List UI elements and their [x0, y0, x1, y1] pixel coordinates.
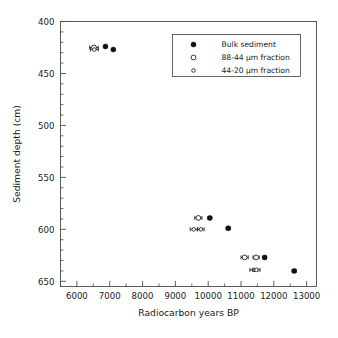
x-tick-label: 6000 [66, 291, 88, 301]
data-point-open-circle-small [93, 48, 97, 52]
legend: Bulk sediment88-44 µm fraction44-20 µm f… [173, 35, 301, 77]
data-point-filled-circle [226, 226, 231, 231]
data-point-filled-circle [103, 44, 108, 49]
y-tick-label: 600 [38, 225, 54, 235]
y-axis-title: Sediment depth (cm) [11, 105, 22, 203]
x-tick-label: 9000 [164, 291, 186, 301]
x-tick-label: 12000 [260, 291, 287, 301]
data-point-open-circle-small [192, 228, 196, 232]
x-tick-label: 8000 [132, 291, 154, 301]
y-tick-label: 650 [38, 277, 54, 287]
x-axis: 600070008000900010000110001200013000 [61, 281, 321, 301]
x-tick-label: 13000 [293, 291, 320, 301]
data-point-open-circle-small [192, 69, 196, 73]
y-tick-label: 400 [38, 17, 54, 27]
data-point-filled-circle [191, 42, 196, 47]
radiocarbon-depth-chart: 400450500550600650 600070008000900010000… [0, 0, 338, 338]
data-point-filled-circle [207, 215, 212, 220]
chart-canvas: 400450500550600650 600070008000900010000… [0, 0, 338, 338]
data-point-open-circle-large [191, 55, 196, 60]
data-point-open-circle-large [254, 255, 259, 260]
cropped-header-text [60, 0, 310, 9]
legend-label: 88-44 µm fraction [222, 53, 290, 62]
data-point-filled-circle [292, 268, 297, 273]
x-tick-label: 11000 [227, 291, 254, 301]
y-axis: 400450500550600650 [38, 17, 66, 287]
data-point-filled-circle [111, 47, 116, 52]
data-point-filled-circle [262, 255, 267, 260]
y-tick-label: 500 [38, 121, 54, 131]
x-tick-label: 10000 [195, 291, 222, 301]
x-axis-title: Radiocarbon years BP [138, 307, 239, 318]
data-points-layer [90, 44, 297, 273]
y-tick-label: 550 [38, 173, 54, 183]
data-point-open-circle-small [199, 228, 203, 232]
legend-label: Bulk sediment [222, 40, 276, 49]
x-tick-label: 7000 [99, 291, 121, 301]
data-point-open-circle-large [242, 255, 247, 260]
data-point-open-circle-small [255, 268, 259, 272]
legend-label: 44-20 µm fraction [222, 66, 290, 75]
data-point-open-circle-large [196, 216, 201, 221]
y-tick-label: 450 [38, 69, 54, 79]
